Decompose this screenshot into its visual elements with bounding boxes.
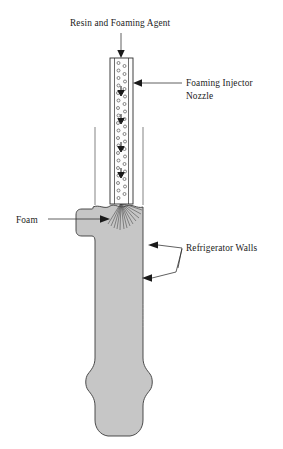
foam-injection-diagram: Resin and Foaming Agent Foaming Injector… [0, 0, 283, 449]
refrigerator-wall-body [76, 205, 152, 436]
nozzle-leader-line [133, 79, 182, 86]
label-foaming-injector-line2: Nozzle [186, 91, 213, 101]
label-foam: Foam [16, 215, 38, 225]
foaming-injector-nozzle [110, 58, 133, 204]
wall-outer-profile [76, 205, 152, 436]
inlet-flow-arrow [117, 33, 124, 58]
walls-leader-lines [142, 241, 182, 281]
label-foaming-injector-line1: Foaming Injector [186, 78, 253, 88]
label-refrigerator-walls: Refrigerator Walls [186, 243, 257, 253]
diagram-canvas: Resin and Foaming Agent Foaming Injector… [0, 0, 283, 449]
nozzle-tube [110, 58, 133, 204]
label-resin-and-foaming-agent: Resin and Foaming Agent [70, 18, 171, 28]
